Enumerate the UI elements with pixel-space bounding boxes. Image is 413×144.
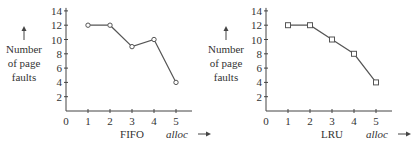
y-arrowhead-icon (224, 26, 229, 31)
y-tick-label: 12 (51, 19, 62, 31)
y-axis-label: Number (208, 43, 244, 55)
y-axis-label: Number (6, 43, 42, 55)
y-tick-label: 12 (251, 19, 262, 31)
data-point-marker (352, 51, 357, 56)
y-axis-label: faults (214, 71, 238, 83)
x-tick-label: 3 (129, 115, 135, 127)
x-tick-label: 0 (63, 115, 69, 127)
chart-lru: 2468101214012345LRUallocNumberof pagefau… (208, 5, 411, 140)
data-point-marker (308, 23, 313, 28)
y-tick-label: 10 (251, 34, 263, 46)
x-tick-label: 0 (263, 115, 269, 127)
x-tick-label: 2 (307, 115, 313, 127)
x-tick-label: 1 (85, 115, 91, 127)
y-arrowhead-icon (22, 26, 27, 31)
chart-title: FIFO (120, 128, 144, 140)
data-line (88, 25, 176, 82)
x-tick-label: 5 (173, 115, 179, 127)
x-tick-label: 1 (285, 115, 291, 127)
x-axis-label: alloc (166, 128, 188, 140)
x-tick-label: 2 (107, 115, 113, 127)
x-tick-label: 4 (351, 115, 357, 127)
chart-fifo: 2468101214012345FIFOallocNumberof pagefa… (6, 5, 211, 140)
x-arrowhead-icon (206, 132, 211, 137)
chart-canvas: 2468101214012345FIFOallocNumberof pagefa… (0, 0, 413, 144)
y-tick-label: 14 (51, 5, 63, 17)
x-tick-label: 3 (329, 115, 335, 127)
data-point-marker (330, 37, 335, 42)
y-tick-label: 14 (251, 5, 263, 17)
x-tick-label: 4 (151, 115, 157, 127)
y-tick-label: 4 (57, 76, 63, 88)
data-point-marker (130, 44, 134, 48)
x-tick-label: 5 (373, 115, 379, 127)
data-point-marker (86, 23, 90, 27)
y-tick-label: 8 (257, 48, 263, 60)
data-point-marker (286, 23, 291, 28)
y-axis-label: of page (210, 57, 243, 69)
y-tick-label: 6 (257, 62, 263, 74)
y-axis-label: of page (8, 57, 41, 69)
y-tick-label: 4 (257, 76, 263, 88)
y-axis-label: faults (12, 71, 36, 83)
x-arrowhead-icon (406, 132, 411, 137)
y-tick-label: 6 (57, 62, 63, 74)
y-tick-label: 2 (257, 91, 263, 103)
data-point-marker (174, 80, 178, 84)
y-tick-label: 10 (51, 34, 63, 46)
chart-title: LRU (321, 128, 343, 140)
y-tick-label: 2 (57, 91, 63, 103)
data-point-marker (374, 80, 379, 85)
data-point-marker (152, 37, 156, 41)
data-point-marker (108, 23, 112, 27)
data-line (288, 25, 376, 82)
y-tick-label: 8 (57, 48, 63, 60)
x-axis-label: alloc (366, 128, 388, 140)
